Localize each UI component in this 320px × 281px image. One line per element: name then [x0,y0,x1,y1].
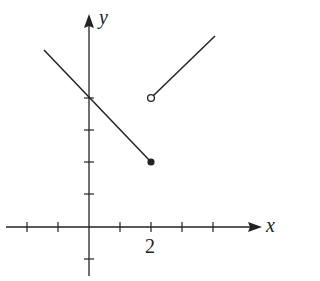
x-axis-arrow-icon [248,222,262,232]
open-endpoint [148,95,155,102]
y-axis-label: y [99,6,108,29]
x-axis-label: x [266,214,275,237]
x-tick-label-2: 2 [145,235,155,258]
closed-endpoint [147,158,154,165]
right-line-segment [154,36,216,96]
left-line-segment [44,50,151,162]
y-axis-arrow-icon [84,14,94,28]
